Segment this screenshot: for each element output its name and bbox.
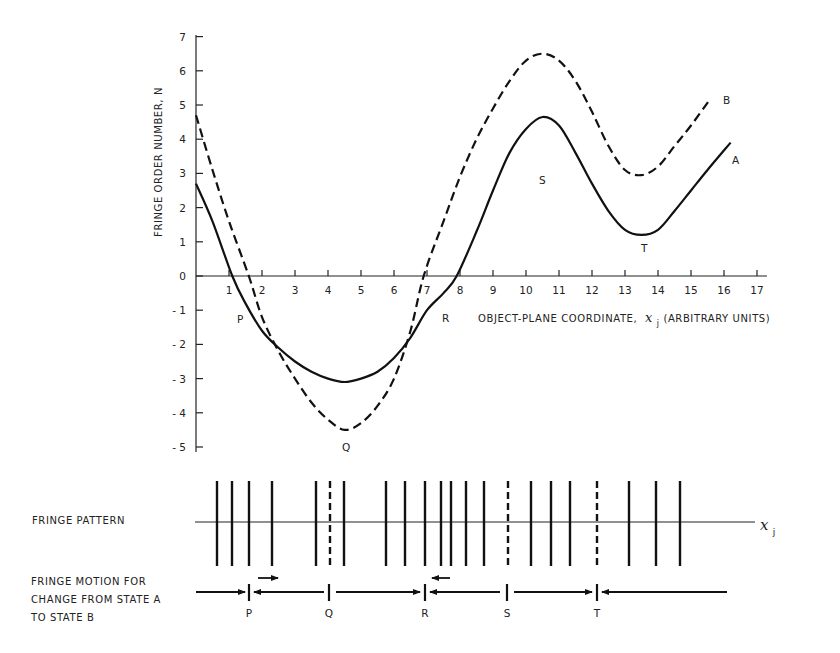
fringe-motion-label-line-2: CHANGE FROM STATE A bbox=[31, 591, 161, 609]
y-tick-label: 3 bbox=[179, 167, 186, 179]
x-axis-title-tail: (ARBITRARY UNITS) bbox=[663, 313, 770, 324]
fringe-motion-label: FRINGE MOTION FOR CHANGE FROM STATE A TO… bbox=[31, 573, 161, 627]
fringe-motion-label-line-1: FRINGE MOTION FOR bbox=[31, 573, 161, 591]
motion-marker-label: T bbox=[593, 607, 601, 619]
x-axis-title: OBJECT-PLANE COORDINATE, x j (ARBITRARY … bbox=[478, 310, 770, 328]
y-tick-label: 0 bbox=[179, 270, 186, 282]
x-tick-label: 13 bbox=[618, 284, 631, 296]
x-tick-label: 6 bbox=[391, 284, 398, 296]
label-s: S bbox=[539, 174, 546, 186]
fringe-pattern: x j bbox=[195, 481, 776, 568]
x-tick-label: 14 bbox=[651, 284, 665, 296]
fringe-figure: 76543210- 1- 2- 3- 4- 5 1234567891011121… bbox=[0, 0, 840, 653]
x-tick-label: 4 bbox=[325, 284, 332, 296]
x-tick-label: 17 bbox=[750, 284, 763, 296]
x-axis-title-main: OBJECT-PLANE COORDINATE, bbox=[478, 313, 637, 324]
fringe-pattern-label: FRINGE PATTERN bbox=[32, 512, 125, 530]
x-tick-label: 11 bbox=[552, 284, 565, 296]
motion-marker-label: Q bbox=[325, 607, 333, 619]
label-q: Q bbox=[342, 441, 350, 453]
motion-marker-label: S bbox=[504, 607, 511, 619]
fringe-motion-label-line-3: TO STATE B bbox=[31, 609, 161, 627]
x-axis-title-var: x bbox=[645, 310, 653, 325]
y-tick-label: - 2 bbox=[172, 338, 186, 350]
fringe-axis-sub: j bbox=[772, 527, 776, 537]
y-tick-label: 6 bbox=[179, 65, 186, 77]
y-tick-label: - 5 bbox=[172, 441, 186, 453]
motion-markers: PQRST bbox=[246, 584, 601, 619]
y-tick-label: 2 bbox=[179, 202, 186, 214]
x-tick-label: 3 bbox=[292, 284, 299, 296]
y-tick-label: - 3 bbox=[172, 373, 186, 385]
label-p: P bbox=[237, 313, 243, 325]
x-tick-label: 9 bbox=[490, 284, 497, 296]
label-curve-b: B bbox=[723, 94, 730, 106]
x-tick-label: 8 bbox=[457, 284, 464, 296]
x-tick-label: 12 bbox=[585, 284, 598, 296]
fringe-motion: PQRST bbox=[196, 578, 727, 619]
x-tick-label: 15 bbox=[684, 284, 697, 296]
label-r: R bbox=[442, 312, 449, 324]
x-tick-label: 16 bbox=[717, 284, 731, 296]
y-tick-label: 4 bbox=[179, 133, 186, 145]
y-ticks: 76543210- 1- 2- 3- 4- 5 bbox=[172, 31, 203, 453]
x-tick-label: 10 bbox=[519, 284, 532, 296]
curve-state-b bbox=[196, 54, 711, 430]
y-tick-label: 7 bbox=[179, 31, 186, 43]
y-tick-label: - 4 bbox=[172, 407, 186, 419]
motion-marker-label: R bbox=[421, 607, 428, 619]
x-tick-label: 7 bbox=[424, 284, 431, 296]
chart-axes: 76543210- 1- 2- 3- 4- 5 1234567891011121… bbox=[172, 31, 767, 453]
label-curve-a: A bbox=[732, 154, 740, 166]
fringe-axis-var: x bbox=[760, 516, 769, 534]
label-t: T bbox=[640, 242, 648, 254]
y-tick-label: - 1 bbox=[172, 304, 186, 316]
y-axis-title: FRINGE ORDER NUMBER, N bbox=[153, 87, 164, 237]
x-tick-label: 5 bbox=[358, 284, 365, 296]
y-tick-label: 5 bbox=[179, 99, 186, 111]
x-tick-label: 1 bbox=[226, 284, 233, 296]
fringe-axis-label: x j bbox=[760, 516, 776, 537]
x-axis-title-sub: j bbox=[656, 319, 660, 328]
motion-marker-label: P bbox=[246, 607, 252, 619]
y-tick-label: 1 bbox=[179, 236, 186, 248]
curve-state-a bbox=[196, 117, 731, 382]
fringe-lines bbox=[217, 481, 680, 568]
x-tick-label: 2 bbox=[259, 284, 266, 296]
x-ticks: 1234567891011121314151617 bbox=[226, 270, 764, 296]
